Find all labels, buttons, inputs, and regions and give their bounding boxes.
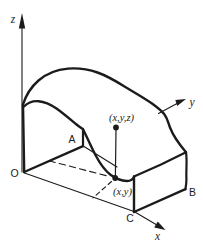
z-axis-arrowhead <box>19 13 25 29</box>
solid-volume-diagram: z y x O A B C (x,y,z) (x,y) <box>0 0 203 245</box>
surface-point-label: (x,y,z) <box>109 112 135 124</box>
base-edge-o-to-a <box>24 146 83 172</box>
dashed-line-to-x-axis <box>93 182 112 198</box>
origin-label: O <box>10 167 18 179</box>
point-xy-dot <box>112 175 118 181</box>
base-point-label: (x,y) <box>113 186 132 198</box>
x-axis-line <box>25 173 157 225</box>
vertical-line-xyz-to-xy <box>115 130 116 176</box>
end-face-top-edge <box>134 152 186 176</box>
linework-group <box>22 28 187 225</box>
x-axis-arrowhead <box>154 222 165 230</box>
y-axis-arrowhead <box>175 99 186 106</box>
solid-top-silhouette <box>23 68 186 152</box>
filled-marks-group <box>19 13 186 230</box>
figure-canvas: z y x O A B C (x,y,z) (x,y) <box>0 0 203 245</box>
corner-b-label: B <box>189 186 196 198</box>
x-axis-label: x <box>154 230 161 242</box>
end-face-right-edge <box>185 152 186 189</box>
y-axis-label: y <box>188 96 195 109</box>
point-xyz-dot <box>113 125 119 131</box>
corner-c-label: C <box>126 212 134 224</box>
labels-group: z y x O A B C (x,y,z) (x,y) <box>10 13 196 242</box>
solid-left-edge <box>23 105 24 173</box>
corner-a-label: A <box>68 133 75 145</box>
z-axis-label: z <box>10 13 16 25</box>
base-edge-c-to-b <box>134 189 185 212</box>
